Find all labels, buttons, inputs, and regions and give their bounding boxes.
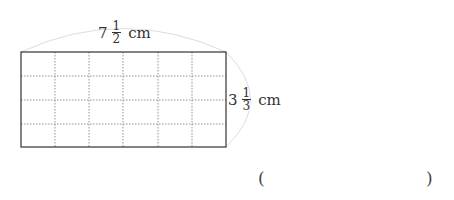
width-label: 7 1 2 cm — [98, 20, 151, 45]
rectangle-outline — [21, 52, 226, 147]
width-whole: 7 — [98, 24, 108, 42]
height-whole: 3 — [228, 91, 238, 109]
grid-lines — [21, 52, 226, 147]
width-denominator: 2 — [113, 33, 121, 45]
answer-open-paren: ( — [258, 168, 265, 188]
height-unit: cm — [258, 91, 281, 109]
height-label: 3 1 3 cm — [228, 87, 281, 112]
answer-blank[interactable] — [272, 168, 422, 190]
answer-close-paren: ) — [426, 168, 433, 188]
height-fraction: 1 3 — [242, 87, 252, 112]
width-unit: cm — [128, 24, 151, 42]
width-fraction: 1 2 — [112, 20, 122, 45]
height-denominator: 3 — [243, 100, 251, 112]
